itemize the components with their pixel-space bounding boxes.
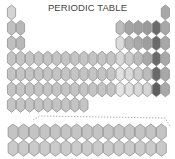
element-cell <box>7 5 15 20</box>
f-block-cell <box>72 140 82 156</box>
element-cell <box>80 67 88 82</box>
element-cell <box>152 51 160 66</box>
element-cell <box>143 51 151 66</box>
element-cell <box>71 67 79 82</box>
f-block-cell <box>29 140 39 156</box>
f-block-cell <box>40 140 50 156</box>
f-block-cell <box>146 124 156 140</box>
element-cell <box>35 51 43 66</box>
f-block-cell <box>82 140 92 156</box>
f-block-cell <box>40 124 50 140</box>
element-cell <box>116 20 124 35</box>
element-cell <box>53 51 61 66</box>
element-cell <box>53 97 61 112</box>
element-cell <box>62 67 70 82</box>
element-cell <box>71 51 79 66</box>
element-cell <box>16 67 24 82</box>
f-block-cell <box>93 124 103 140</box>
element-cell <box>143 67 151 82</box>
element-cell <box>98 82 106 97</box>
element-cell <box>35 67 43 82</box>
element-cell <box>116 51 124 66</box>
f-block-cell <box>135 140 145 156</box>
element-cell <box>143 82 151 97</box>
f-block-cell <box>125 140 135 156</box>
element-cell <box>152 82 160 97</box>
element-cell <box>26 67 34 82</box>
f-block-cell <box>29 124 39 140</box>
element-cell <box>116 82 124 97</box>
f-block-cell <box>8 124 18 140</box>
element-cell <box>116 36 124 51</box>
element-cell <box>44 82 52 97</box>
element-cell <box>16 36 24 51</box>
element-cell <box>26 97 34 112</box>
f-block-cell <box>51 140 61 156</box>
f-block-cell <box>146 140 156 156</box>
element-cell <box>35 97 43 112</box>
f-block-cell <box>135 124 145 140</box>
f-block-cell <box>19 124 29 140</box>
element-cell <box>71 82 79 97</box>
element-cell <box>107 67 115 82</box>
element-cell <box>125 51 133 66</box>
element-cell <box>125 36 133 51</box>
element-cell <box>161 51 169 66</box>
element-cell <box>26 51 34 66</box>
f-block-cell <box>19 140 29 156</box>
element-cell <box>16 20 24 35</box>
element-cell <box>143 20 151 35</box>
element-cell <box>89 82 97 97</box>
element-cell <box>7 97 15 112</box>
element-cell <box>16 97 24 112</box>
f-block-cell <box>157 140 167 156</box>
element-cell <box>161 67 169 82</box>
element-cell <box>35 82 43 97</box>
f-block-cell <box>61 124 71 140</box>
f-block-cell <box>114 140 124 156</box>
element-cell <box>152 36 160 51</box>
element-cell <box>134 36 142 51</box>
element-cell <box>125 20 133 35</box>
element-cell <box>7 36 15 51</box>
element-cell <box>152 67 160 82</box>
element-cell <box>161 82 169 97</box>
f-block-cell <box>157 124 167 140</box>
f-block-cell <box>104 124 114 140</box>
periodic-table-diagram <box>0 0 175 159</box>
element-cell <box>7 67 15 82</box>
element-cell <box>98 67 106 82</box>
element-cell <box>89 51 97 66</box>
element-cell <box>44 51 52 66</box>
element-cell <box>7 82 15 97</box>
f-block-cell <box>104 140 114 156</box>
element-cell <box>26 82 34 97</box>
element-cell <box>161 5 169 20</box>
f-block-cell <box>61 140 71 156</box>
element-cell <box>7 20 15 35</box>
element-cell <box>116 67 124 82</box>
f-block-cell <box>82 124 92 140</box>
element-cell <box>71 97 79 112</box>
element-cell <box>62 97 70 112</box>
element-cell <box>125 67 133 82</box>
element-cell <box>53 82 61 97</box>
element-cell <box>134 20 142 35</box>
element-cell <box>89 67 97 82</box>
element-cell <box>80 97 88 112</box>
element-cell <box>53 67 61 82</box>
f-block-grid <box>8 124 166 156</box>
f-block-cell <box>51 124 61 140</box>
element-cell <box>44 97 52 112</box>
element-cell <box>161 36 169 51</box>
element-cell <box>98 51 106 66</box>
lanthanide-connector-line <box>33 116 170 126</box>
element-cell <box>44 67 52 82</box>
f-block-cell <box>93 140 103 156</box>
element-cell <box>7 51 15 66</box>
f-block-cell <box>125 124 135 140</box>
f-block-cell <box>72 124 82 140</box>
element-cell <box>152 20 160 35</box>
element-cell <box>107 51 115 66</box>
element-cell <box>134 67 142 82</box>
